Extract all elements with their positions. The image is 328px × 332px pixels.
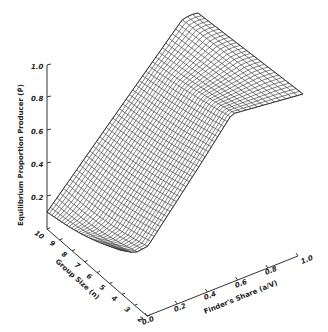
n-tick-mark — [72, 250, 75, 251]
n-tick-mark — [85, 261, 88, 262]
wireframe-surface — [47, 13, 303, 252]
share-tick-mark — [175, 301, 177, 304]
n-tick-mark — [110, 282, 113, 283]
z-axis: 1.0 0.8 0.6 0.4 0.2 Equilibrium Proporti… — [16, 63, 51, 229]
n-tick-4: 4 — [110, 294, 119, 303]
n-tick-10: 10 — [33, 229, 46, 241]
n-tick-7: 7 — [73, 261, 82, 270]
n-tick-5: 5 — [98, 283, 107, 292]
n-tick-mark — [122, 293, 125, 294]
share-tick-mark — [296, 253, 298, 256]
s-tick-0.2: 0.2 — [173, 302, 188, 314]
z-tick-1.0: 1.0 — [31, 63, 44, 71]
share-axis: 0.0 0.2 0.4 0.6 0.8 1.0 Finder's Share (… — [141, 253, 315, 327]
n-tick-mark — [97, 271, 100, 272]
n-tick-mark — [60, 239, 63, 240]
n-tick-6: 6 — [85, 272, 94, 281]
n-tick-8: 8 — [60, 250, 69, 259]
surface-chart: 1.0 0.8 0.6 0.4 0.2 Equilibrium Proporti… — [0, 0, 328, 332]
n-tick-9: 9 — [48, 239, 57, 248]
n-tick-mark — [135, 304, 138, 305]
z-tick-0.8: 0.8 — [31, 95, 44, 103]
n-tick-3: 3 — [123, 305, 132, 314]
z-tick-0.6: 0.6 — [31, 128, 44, 136]
z-tick-0.4: 0.4 — [31, 161, 44, 169]
s-tick-0.4: 0.4 — [203, 290, 218, 302]
share-tick-mark — [205, 289, 207, 292]
s-tick-1.0: 1.0 — [300, 254, 315, 266]
share-tick-mark — [236, 277, 238, 280]
s-tick-0.6: 0.6 — [234, 278, 249, 290]
z-tick-0.2: 0.2 — [31, 194, 44, 202]
z-axis-title: Equilibrium Proportion Producer (P̂) — [16, 84, 25, 226]
s-tick-0.8: 0.8 — [264, 265, 279, 277]
